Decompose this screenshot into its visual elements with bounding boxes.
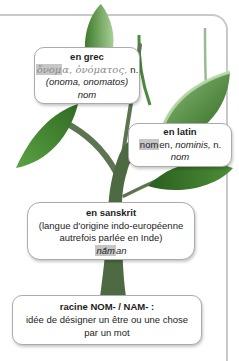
greek-transliteration: (onoma, onomatos) <box>35 76 139 89</box>
root-definition-line1: idée de désigner un être ou une chose <box>13 313 201 326</box>
greek-word-line: ὄνομα, ὀνόματος, n. <box>35 64 139 77</box>
greek-root-highlight: ὄνομ <box>36 64 63 75</box>
root-definition-line2: par un mot <box>13 326 201 339</box>
leaf-left-icon <box>16 104 78 168</box>
root-definition-box: racine NOM- / NAM- : idée de désigner un… <box>12 295 202 345</box>
greek-gender: n. <box>130 64 138 75</box>
latin-translation: nom <box>129 151 231 164</box>
sanskrit-note-line1: (langue d'origine indo-européenne <box>28 220 194 233</box>
latin-title: en latin <box>129 126 231 139</box>
greek-title: en grec <box>35 51 139 64</box>
sanskrit-note-line2: autrefois parlée en Inde) <box>28 232 194 245</box>
latin-word-line: nomen, nominis, n. <box>129 139 231 152</box>
sanskrit-word-line: nā́man <box>28 245 194 258</box>
branch-left <box>64 122 116 172</box>
sanskrit-root-highlight: nā́m <box>95 245 115 256</box>
sanskrit-title: en sanskrit <box>28 207 194 220</box>
root-title: racine NOM- / NAM- : <box>13 300 201 313</box>
greek-etymology-box: en grec ὄνομα, ὀνόματος, n. (onoma, onom… <box>34 47 140 104</box>
latin-root-highlight: nom <box>139 139 159 150</box>
greek-translation: nom <box>35 89 139 102</box>
stem-top-right <box>205 28 206 86</box>
greek-word-rest: α, ὀνόματος, <box>62 64 130 75</box>
sanskrit-word-rest: an <box>116 245 127 256</box>
latin-etymology-box: en latin nomen, nominis, n. nom <box>128 123 232 167</box>
latin-word-rest: en, <box>159 139 175 150</box>
latin-genitive: nominis, <box>175 139 213 150</box>
latin-gender: n. <box>213 139 221 150</box>
sanskrit-etymology-box: en sanskrit (langue d'origine indo-europ… <box>27 202 195 260</box>
